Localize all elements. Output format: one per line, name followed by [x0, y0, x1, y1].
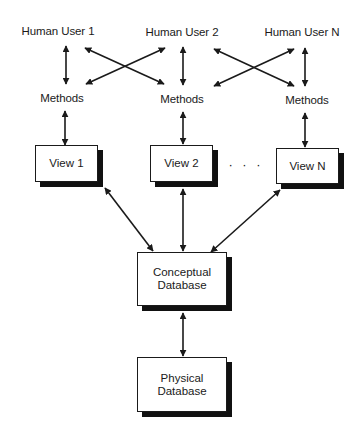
view-1-box: View 1 — [35, 145, 98, 182]
human-user-1-label: Human User 1 — [22, 26, 95, 38]
human-user-n-label: Human User N — [265, 27, 340, 39]
conceptual-database-line2: Database — [157, 279, 206, 292]
conceptual-database-box: Conceptual Database — [137, 252, 227, 306]
physical-database-box: Physical Database — [137, 357, 227, 412]
view-2-label: View 2 — [164, 157, 198, 170]
database-architecture-diagram: Human User 1 Human User 2 Human User N M… — [0, 0, 361, 444]
methods-1-label: Methods — [40, 93, 83, 105]
conceptual-database-line1: Conceptual — [153, 266, 211, 279]
physical-database-line1: Physical — [161, 372, 204, 385]
arrow-view1-conceptual — [105, 188, 153, 251]
human-user-2-label: Human User 2 — [146, 27, 219, 39]
ellipsis: · · · — [228, 158, 263, 171]
view-1-label: View 1 — [49, 157, 83, 170]
arrow-viewN-conceptual — [211, 190, 280, 252]
methods-n-label: Methods — [285, 95, 328, 107]
physical-database-line2: Database — [157, 385, 206, 398]
view-n-box: View N — [276, 148, 339, 184]
view-n-label: View N — [289, 160, 325, 173]
methods-2-label: Methods — [160, 94, 203, 106]
view-2-box: View 2 — [150, 145, 213, 182]
